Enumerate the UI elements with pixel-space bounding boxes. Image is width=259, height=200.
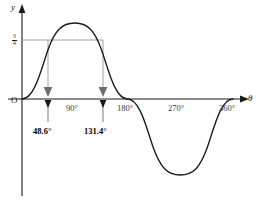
callout-label-131-4: 131.4° — [84, 127, 107, 136]
y-axis-arrowhead-icon — [19, 4, 26, 13]
origin-label: O — [11, 96, 18, 105]
x-tick-label-360: 360° — [219, 104, 235, 113]
sine-curve-figure: y θ O 3 4 90° 180° 270° 360° 48.6° 131.4… — [0, 0, 259, 200]
y-tick-label-three-quarters: 3 4 — [12, 34, 17, 47]
callout-arrow-up-131-4-icon — [100, 100, 107, 108]
sine-plot-canvas — [0, 0, 259, 200]
fraction-denominator: 4 — [12, 40, 17, 47]
drop-line-48-6-arrow-down-icon — [44, 87, 53, 97]
x-tick-label-90: 90° — [66, 104, 78, 113]
callout-arrow-up-48-6-icon — [45, 100, 52, 108]
callout-label-48-6: 48.6° — [33, 127, 51, 136]
x-axis-label: θ — [248, 94, 252, 103]
x-tick-label-180: 180° — [117, 104, 133, 113]
drop-line-131-4-arrow-down-icon — [99, 87, 108, 97]
x-tick-label-270: 270° — [168, 104, 184, 113]
y-axis-label: y — [11, 3, 15, 12]
